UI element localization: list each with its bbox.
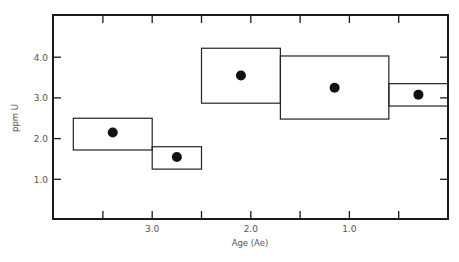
data-point — [172, 152, 182, 162]
y-tick-label: 1.0 — [34, 175, 49, 185]
chart: 3.02.01.04.03.02.01.0 Age (Ae) ppm U — [0, 0, 459, 262]
y-tick-label: 4.0 — [34, 53, 49, 63]
x-tick-label: 3.0 — [145, 224, 160, 234]
data-point — [413, 90, 423, 100]
data-points — [108, 71, 424, 162]
x-axis-label: Age (Ae) — [232, 238, 269, 248]
data-range-boxes — [73, 48, 448, 169]
y-axis-label: ppm U — [10, 104, 20, 132]
y-tick-label: 2.0 — [34, 134, 49, 144]
data-point — [108, 127, 118, 137]
x-tick-label: 1.0 — [342, 224, 357, 234]
data-point — [330, 83, 340, 93]
axis-tick-labels: 3.02.01.04.03.02.01.0 — [34, 53, 357, 234]
y-tick-label: 3.0 — [34, 93, 49, 103]
data-point — [236, 71, 246, 81]
x-tick-label: 2.0 — [244, 224, 259, 234]
